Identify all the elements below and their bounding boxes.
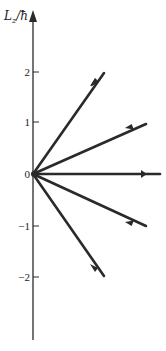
tick-label-2: 2 — [25, 66, 31, 78]
axis-label: Lz/ħ — [3, 9, 28, 25]
tick-label-neg1: −1 — [18, 220, 30, 232]
vector-m0 — [33, 170, 160, 178]
axis-arrow-icon — [29, 10, 37, 22]
tick-label-neg2: −2 — [18, 271, 30, 283]
origin-point — [31, 171, 37, 177]
tick-label-0: 0 — [25, 168, 31, 180]
vector-model-diagram: Lz/ħ 2 1 0 −1 −2 — [0, 0, 166, 351]
tick-label-1: 1 — [25, 116, 31, 128]
